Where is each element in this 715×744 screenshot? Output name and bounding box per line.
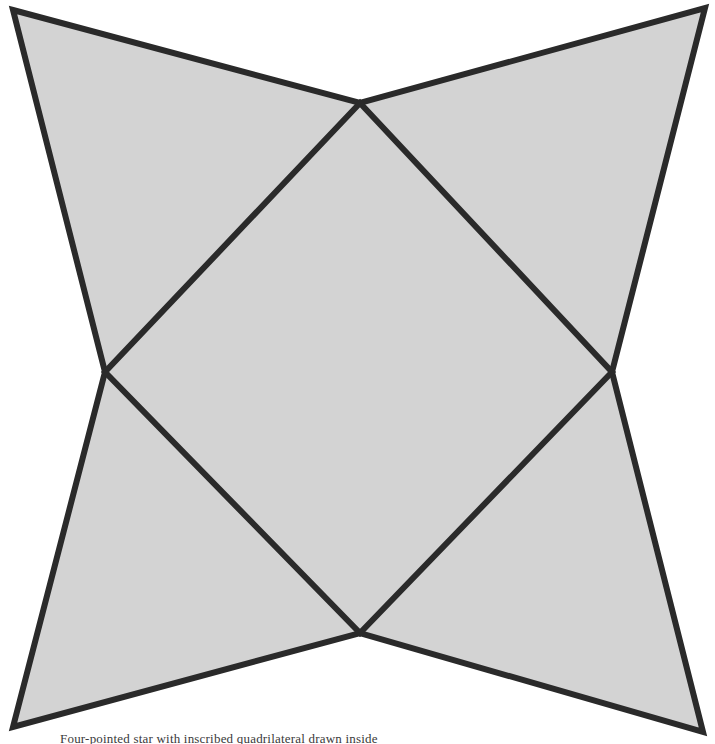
geometric-figure-svg <box>0 0 715 744</box>
four-pointed-star-shape <box>13 8 705 732</box>
figure-canvas: Four-pointed star with inscribed quadril… <box>0 0 715 744</box>
